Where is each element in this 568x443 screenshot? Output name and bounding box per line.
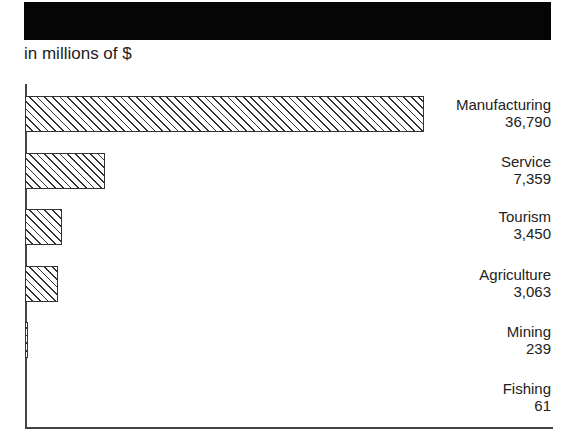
bar-label-service: Service7,359 xyxy=(501,153,551,187)
bar-manufacturing xyxy=(25,96,424,132)
bar-label-manufacturing: Manufacturing36,790 xyxy=(456,96,551,130)
bar-mining xyxy=(25,322,28,358)
bar-tourism xyxy=(25,209,62,245)
bar-label-tourism: Tourism3,450 xyxy=(498,208,551,242)
bar-label-mining: Mining239 xyxy=(507,323,551,357)
x-axis-baseline xyxy=(25,427,553,429)
bar-agriculture xyxy=(25,266,58,302)
bar-label-agriculture: Agriculture3,063 xyxy=(479,266,551,300)
y-axis-line xyxy=(25,84,27,429)
bar-label-fishing: Fishing61 xyxy=(503,380,551,414)
chart-title-redacted xyxy=(24,2,551,40)
bar-service xyxy=(25,153,105,189)
chart-subtitle: in millions of $ xyxy=(24,44,132,64)
